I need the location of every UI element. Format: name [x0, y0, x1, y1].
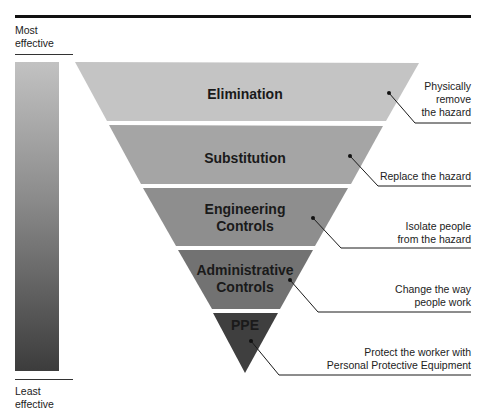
tier-engineering-line2: Controls	[180, 218, 310, 235]
desc-engineering: Isolate people from the hazard	[397, 220, 471, 246]
desc-elimination-line1: Physically	[421, 80, 471, 93]
desc-elimination-line2: remove	[421, 93, 471, 106]
tier-elimination-text: Elimination	[180, 86, 310, 103]
desc-substitution-line1: Replace the hazard	[380, 170, 471, 183]
tier-administrative-line2: Controls	[180, 279, 310, 296]
leader-dot-substitution	[348, 154, 352, 158]
tier-administrative-line1: Administrative	[180, 262, 310, 279]
desc-administrative-line1: Change the way	[395, 283, 471, 296]
tier-ppe-label: PPE	[210, 317, 280, 334]
desc-substitution: Replace the hazard	[380, 170, 471, 183]
tier-administrative-label: Administrative Controls	[180, 262, 310, 296]
desc-elimination-line3: the hazard	[421, 106, 471, 119]
desc-administrative: Change the way people work	[395, 283, 471, 309]
desc-ppe: Protect the worker with Personal Protect…	[327, 346, 471, 372]
leader-dot-engineering	[311, 216, 315, 220]
tier-engineering-label: Engineering Controls	[180, 201, 310, 235]
tier-engineering-line1: Engineering	[180, 201, 310, 218]
desc-elimination: Physically remove the hazard	[421, 80, 471, 119]
tier-elimination-label: Elimination	[180, 86, 310, 103]
tier-substitution-label: Substitution	[180, 150, 310, 167]
tier-substitution-text: Substitution	[180, 150, 310, 167]
tier-ppe-text: PPE	[210, 317, 280, 334]
leader-dot-elimination	[387, 91, 391, 95]
desc-engineering-line1: Isolate people	[397, 220, 471, 233]
desc-ppe-line1: Protect the worker with	[327, 346, 471, 359]
desc-ppe-line2: Personal Protective Equipment	[327, 359, 471, 372]
desc-engineering-line2: from the hazard	[397, 233, 471, 246]
desc-administrative-line2: people work	[395, 296, 471, 309]
leader-dot-ppe	[249, 339, 253, 343]
